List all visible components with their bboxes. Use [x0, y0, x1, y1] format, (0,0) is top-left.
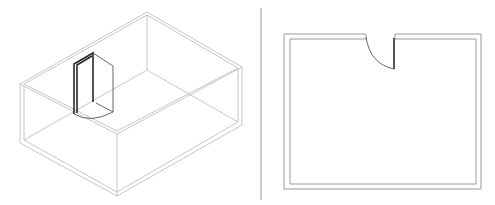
door-3d	[74, 53, 113, 119]
plan-view	[284, 34, 481, 189]
cad-canvas	[0, 0, 495, 205]
isometric-view	[20, 12, 242, 196]
door-swing	[366, 37, 394, 69]
